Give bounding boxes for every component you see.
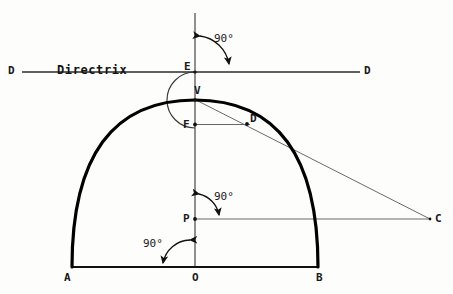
label-directrix-left-D: D	[8, 65, 15, 76]
point-dot-D	[245, 122, 249, 126]
label-point-A: A	[64, 272, 71, 283]
point-dot-E	[193, 70, 196, 73]
label-point-P: P	[183, 213, 190, 224]
label-point-F: F	[183, 119, 190, 130]
point-dot-C	[429, 218, 432, 221]
parabola-diagram: Directrix D D E V F D P C A O B 90° 90° …	[0, 0, 453, 294]
label-point-C: C	[435, 213, 442, 224]
label-point-D: D	[250, 113, 257, 124]
directrix-label: Directrix	[57, 64, 127, 76]
label-point-O: O	[192, 272, 199, 283]
angle-arrow-bottom	[163, 240, 190, 263]
label-angle-bottom: 90°	[143, 238, 163, 249]
label-directrix-right-D: D	[364, 65, 371, 76]
label-point-B: B	[316, 272, 323, 283]
label-angle-top: 90°	[214, 33, 234, 44]
point-dot-V	[193, 98, 197, 102]
point-dot-P	[193, 217, 197, 221]
label-point-E: E	[184, 61, 191, 72]
label-angle-middle: 90°	[214, 191, 234, 202]
point-dot-F	[193, 123, 197, 127]
label-point-V: V	[194, 85, 201, 96]
